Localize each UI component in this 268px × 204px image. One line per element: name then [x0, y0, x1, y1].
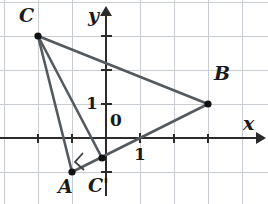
grid-lines: [0, 0, 268, 204]
point-label-B: B: [214, 64, 230, 83]
geometry-figure: C B A C' y x 0 1 1: [0, 0, 268, 204]
point-C: [34, 32, 41, 39]
origin-label: 0: [110, 112, 122, 129]
point-B: [204, 100, 211, 107]
point-label-C-prime: C': [88, 176, 109, 195]
x-axis-arrow: [256, 132, 266, 144]
point-label-C: C: [19, 6, 34, 25]
y-unit-label: 1: [86, 95, 98, 112]
x-axis-label: x: [243, 114, 254, 133]
y-axis-label: y: [88, 6, 99, 25]
point-C-prime: [98, 154, 105, 161]
point-label-A: A: [58, 177, 73, 196]
x-unit-label: 1: [134, 146, 146, 163]
coordinate-plane-svg: [0, 0, 268, 204]
y-axis-arrow: [100, 6, 112, 16]
